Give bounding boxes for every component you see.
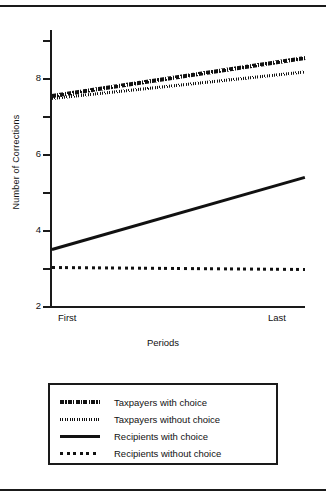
y-axis-tick-2 [43, 306, 51, 308]
x-tick-label-last: Last [268, 312, 286, 323]
y-axis-title: Number of Corrections [11, 102, 21, 222]
bottom-divider-rule [0, 489, 326, 491]
y-axis-tick-label-6: 6 [21, 148, 41, 159]
y-axis-tick-4 [43, 230, 51, 232]
legend-item: Recipients with choice [60, 428, 268, 444]
legend-swatch-solid [60, 435, 100, 438]
figure-page: Number of Corrections 8642 First Last Pe… [0, 0, 326, 501]
legend-swatch-dash-dot-thick [60, 400, 100, 404]
y-axis-tick-5 [43, 192, 51, 194]
x-tick-label-first: First [58, 312, 76, 323]
legend-label: Recipients without choice [114, 448, 221, 459]
legend-swatch-dotted-fine [60, 418, 100, 421]
x-axis-title: Periods [0, 337, 326, 348]
chart-plot-area: Number of Corrections 8642 First Last [0, 22, 326, 322]
legend-item: Taxpayers with choice [60, 394, 268, 410]
legend-label: Recipients with choice [114, 431, 208, 442]
y-axis-tick-label-4: 4 [21, 224, 41, 235]
y-axis-tick-label-8: 8 [21, 72, 41, 83]
y-axis-tick-3 [43, 268, 51, 270]
legend-label: Taxpayers with choice [114, 397, 207, 408]
series-line-recipients-with-choice [52, 176, 306, 251]
legend-item: Taxpayers without choice [60, 411, 268, 427]
legend-label: Taxpayers without choice [114, 414, 220, 425]
chart-legend: Taxpayers with choiceTaxpayers without c… [48, 383, 278, 465]
series-line-recipients-without-choice [52, 266, 305, 271]
y-axis-tick-6 [43, 154, 51, 156]
legend-item: Recipients without choice [60, 445, 268, 461]
y-axis-tick-label-2: 2 [21, 300, 41, 311]
top-divider-rule [0, 5, 326, 7]
legend-swatch-dotted-coarse [60, 452, 100, 455]
y-axis-tick-9 [43, 40, 51, 42]
y-axis-tick-8 [43, 78, 51, 80]
y-axis-tick-7 [43, 116, 51, 118]
x-axis-line [50, 306, 305, 308]
